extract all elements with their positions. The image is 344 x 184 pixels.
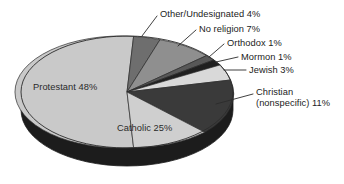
label-no-religion: No religion 7% xyxy=(199,24,260,35)
pie-chart: Other/Undesignated 4% No religion 7% Ort… xyxy=(0,0,344,184)
leader-line-mormon xyxy=(216,57,238,62)
label-christian-line2: (nonspecific) 11% xyxy=(256,98,330,108)
leader-line-no-religion xyxy=(178,30,196,46)
leader-line-orthodox xyxy=(209,44,224,57)
label-jewish: Jewish 3% xyxy=(249,65,294,76)
label-christian-line1: Christian xyxy=(256,87,293,97)
leader-line-other-undesignated xyxy=(142,16,157,36)
label-mormon: Mormon 1% xyxy=(241,52,292,63)
label-other-undesignated: Other/Undesignated 4% xyxy=(160,9,260,20)
label-catholic: Catholic 25% xyxy=(117,123,172,134)
label-protestant: Protestant 48% xyxy=(33,82,97,93)
label-christian-nonspecific: Christian (nonspecific) 11% xyxy=(256,87,344,109)
label-orthodox: Orthodox 1% xyxy=(227,38,282,49)
